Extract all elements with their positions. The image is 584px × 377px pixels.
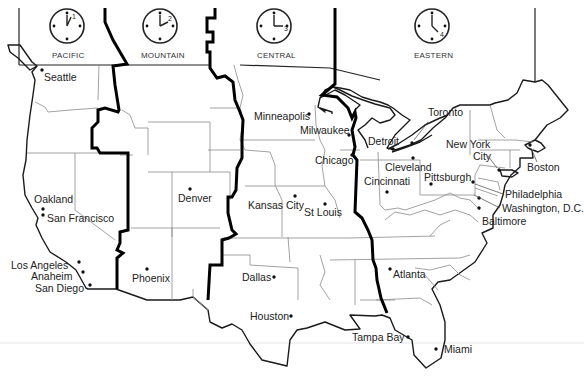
city-label: Pittsburgh (424, 171, 471, 183)
city-tampa-bay: Tampa Bay (352, 331, 410, 343)
city-label: Anaheim (31, 270, 73, 282)
zone-label-mountain: MOUNTAIN (141, 51, 185, 60)
city-chicago: Chicago (315, 153, 354, 166)
city-pittsburgh: Pittsburgh (424, 171, 471, 186)
city-label: New York (446, 138, 491, 150)
city-houston: Houston (250, 310, 293, 322)
city-label: Oakland (34, 193, 73, 205)
clock-central: 3 CENTRAL (257, 9, 296, 60)
city-philadelphia: Philadelphia (471, 180, 562, 200)
pacific-mountain-boundary (92, 8, 128, 289)
city-denver: Denver (178, 187, 212, 204)
city-label: Philadelphia (505, 188, 562, 200)
clock-eastern: 4 EASTERN (414, 9, 453, 60)
city-label: San Francisco (47, 212, 114, 224)
clock-hour-label: 4 (440, 31, 444, 38)
city-label: Boston (527, 161, 560, 173)
city-label: Dallas (242, 271, 271, 283)
city-label: Cincinnati (364, 175, 410, 187)
city-milwaukee: Milwaukee (300, 124, 351, 137)
city-label: Atlanta (393, 268, 426, 280)
city-san-diego: San Diego (35, 282, 92, 294)
city-san-francisco: San Francisco (41, 212, 114, 224)
time-zone-map: 1 PACIFIC 2 MOUNTAIN 3 CENTRAL 4 EASTERN (0, 0, 584, 377)
clock-hour-label: 1 (72, 13, 76, 20)
city-dallas: Dallas (242, 271, 276, 283)
city-label: Phoenix (132, 272, 171, 284)
city-label: Chicago (315, 154, 354, 166)
city-label: Houston (250, 310, 289, 322)
state-borders (27, 65, 533, 310)
city-atlanta: Atlanta (388, 267, 426, 280)
clock-hour-label: 3 (284, 25, 288, 32)
city-label: San Diego (35, 282, 84, 294)
zone-label-eastern: EASTERN (414, 51, 453, 60)
clock-mountain: 2 MOUNTAIN (141, 9, 185, 60)
city-label: City (473, 150, 492, 162)
city-label: St Louis (304, 206, 342, 218)
city-label: Minneapolis (254, 110, 310, 122)
city-label: Miami (444, 343, 472, 355)
city-phoenix: Phoenix (132, 267, 171, 284)
city-miami: Miami (434, 343, 472, 355)
city-oakland: Oakland (34, 193, 73, 211)
zone-label-pacific: PACIFIC (52, 51, 84, 60)
zone-label-central: CENTRAL (257, 51, 296, 60)
city-label: Toronto (428, 106, 463, 118)
city-label: Tampa Bay (352, 331, 405, 343)
clock-hour-label: 2 (168, 15, 172, 22)
city-label: Denver (178, 192, 212, 204)
city-label: Detroit (368, 135, 399, 147)
city-cincinnati: Cincinnati (364, 175, 410, 194)
city-label: Seattle (44, 71, 77, 83)
mountain-central-boundary (207, 8, 243, 300)
city-label: Baltimore (482, 215, 527, 227)
city-kansas-city: Kansas City (248, 194, 305, 211)
city-detroit: Detroit (368, 135, 399, 151)
clock-pacific: 1 PACIFIC (50, 9, 84, 60)
city-label: Milwaukee (300, 124, 350, 136)
city-seattle: Seattle (40, 68, 77, 83)
city-label: Washington, D.C. (502, 202, 584, 214)
city-label: Kansas City (248, 199, 305, 211)
city-minneapolis: Minneapolis (254, 110, 311, 122)
